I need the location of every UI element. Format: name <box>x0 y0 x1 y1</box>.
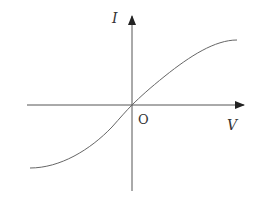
y-axis-label: I <box>111 10 118 26</box>
iv-diagram: I O V <box>0 0 262 199</box>
iv-curve <box>30 40 237 168</box>
x-axis-label: V <box>227 117 239 133</box>
origin-label: O <box>138 112 149 127</box>
